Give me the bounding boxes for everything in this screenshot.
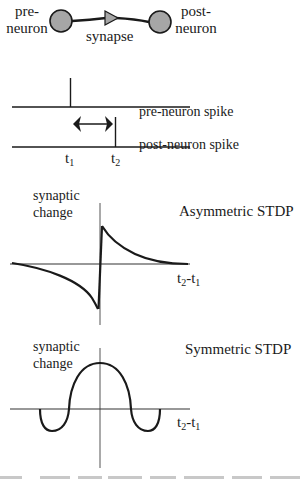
synapse-triangle: [105, 11, 118, 25]
asymmetric-xlabel-t1-sub: 1: [195, 277, 200, 288]
asymmetric-stdp-plot: [10, 203, 190, 325]
symmetric-ylabel: synaptic change: [33, 338, 80, 372]
asymmetric-ltp-branch: [102, 226, 188, 264]
pre-neuron-label: pre- neuron: [2, 3, 52, 37]
t1-subscript: 1: [69, 157, 74, 168]
symmetric-xlabel-t1-sub: 1: [195, 421, 200, 432]
asymmetric-ylabel-line1: synaptic: [33, 187, 80, 204]
t2-subscript: 2: [115, 157, 120, 168]
pre-neuron-label-line1: pre-: [2, 3, 52, 20]
asymmetric-ltd-branch: [12, 263, 98, 309]
asymmetric-ylabel-line2: change: [33, 204, 80, 221]
stdp-figure: [0, 0, 307, 481]
t1-label: t1: [65, 150, 74, 171]
cropped-caption-fragment: [0, 474, 307, 481]
asymmetric-xlabel: t2-t1: [177, 270, 200, 291]
post-neuron-label: post- neuron: [170, 3, 222, 37]
t2-label: t2: [111, 150, 120, 171]
synapse-label: synapse: [86, 28, 134, 45]
symmetric-ylabel-line2: change: [33, 355, 80, 372]
post-neuron-label-line2: neuron: [170, 20, 222, 37]
pre-neuron-circle: [50, 10, 72, 32]
post-neuron-label-line1: post-: [170, 3, 222, 20]
symmetric-ylabel-line1: synaptic: [33, 338, 80, 355]
pre-neuron-spike-label: pre-neuron spike: [139, 103, 233, 120]
symmetric-xlabel: t2-t1: [177, 414, 200, 435]
asymmetric-ylabel: synaptic change: [33, 187, 80, 221]
post-neuron-spike-label: post-neuron spike: [139, 136, 239, 153]
post-neuron-circle: [149, 11, 171, 33]
symmetric-title: Symmetric STDP: [185, 341, 291, 358]
pre-neuron-label-line2: neuron: [2, 20, 52, 37]
asymmetric-title: Asymmetric STDP: [179, 203, 294, 220]
